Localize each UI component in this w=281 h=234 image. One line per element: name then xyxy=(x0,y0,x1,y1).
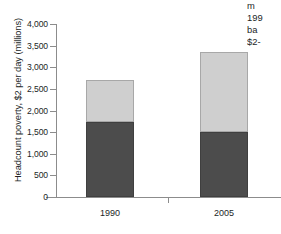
y-tick-mark-3000 xyxy=(50,67,56,68)
chart-figure: Headcount poverty, $2 per day (millions)… xyxy=(0,0,281,234)
y-tick-mark-2500 xyxy=(50,89,56,90)
y-tick-label-500: 500 xyxy=(8,171,48,180)
y-axis-title: Headcount poverty, $2 per day (millions) xyxy=(11,5,25,195)
y-tick-mark-4000 xyxy=(50,24,56,25)
side-caption-line-4: $2- xyxy=(247,36,281,48)
bar-1990[interactable] xyxy=(86,80,134,197)
bar-2005-segment-upper xyxy=(200,52,248,132)
x-axis-line xyxy=(46,197,281,198)
bar-2005-segment-lower xyxy=(200,132,248,197)
y-axis-line xyxy=(56,24,57,197)
y-tick-label-1000: 1,000 xyxy=(8,150,48,159)
y-tick-label-4000: 4,000 xyxy=(8,20,48,29)
y-tick-mark-2000 xyxy=(50,111,56,112)
y-tick-label-3000: 3,000 xyxy=(8,63,48,72)
side-caption-line-3: ba xyxy=(247,24,281,36)
bar-1990-segment-lower xyxy=(86,122,134,197)
y-tick-label-2000: 2,000 xyxy=(8,107,48,116)
y-tick-mark-1500 xyxy=(50,132,56,133)
y-tick-label-2500: 2,500 xyxy=(8,85,48,94)
y-tick-label-3500: 3,500 xyxy=(8,42,48,51)
x-tick-label-1990: 1990 xyxy=(80,208,140,219)
y-tick-label-0: 0 xyxy=(8,193,48,202)
side-caption: m 199 ba $2- xyxy=(247,0,281,48)
x-tick-mark-middle xyxy=(168,198,169,203)
y-tick-mark-1000 xyxy=(50,154,56,155)
side-caption-line-1: m xyxy=(247,0,281,12)
bar-1990-segment-upper xyxy=(86,80,134,122)
x-tick-label-2005: 2005 xyxy=(194,208,254,219)
side-caption-line-2: 199 xyxy=(247,12,281,24)
bar-2005[interactable] xyxy=(200,52,248,197)
y-tick-mark-500 xyxy=(50,175,56,176)
y-tick-mark-3500 xyxy=(50,46,56,47)
y-tick-mark-0 xyxy=(50,197,56,198)
y-tick-label-1500: 1,500 xyxy=(8,128,48,137)
